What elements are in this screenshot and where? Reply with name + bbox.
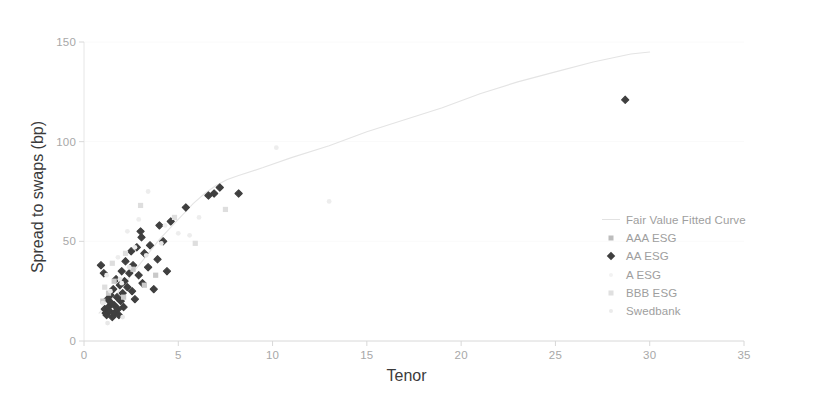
y-tick-0: 0 xyxy=(38,335,76,347)
x-tick-10: 10 xyxy=(266,349,279,361)
series-bbb-esg xyxy=(102,203,228,290)
legend-line-icon xyxy=(600,211,622,229)
series-aa-esg xyxy=(97,96,628,320)
legend-item-aa-esg[interactable]: AA ESG xyxy=(600,247,800,265)
legend-item-bbb-esg[interactable]: BBB ESG xyxy=(600,284,800,302)
legend-label: AAA ESG xyxy=(626,232,677,244)
legend-dot-icon xyxy=(600,302,622,320)
legend-square-icon xyxy=(600,229,622,247)
legend-dot-icon xyxy=(600,266,622,284)
legend-label: A ESG xyxy=(626,269,661,281)
legend-label: AA ESG xyxy=(626,250,669,262)
chart-legend: Fair Value Fitted CurveAAA ESGAA ESGA ES… xyxy=(600,211,800,320)
y-tick-150: 150 xyxy=(38,36,76,48)
legend-square-icon xyxy=(600,284,622,302)
legend-label: Fair Value Fitted Curve xyxy=(626,214,746,226)
x-axis-title: Tenor xyxy=(0,367,813,385)
legend-diamond-icon xyxy=(600,247,622,265)
series-fair-value-fitted-curve xyxy=(99,52,650,313)
legend-item-a-esg[interactable]: A ESG xyxy=(600,266,800,284)
legend-item-aaa-esg[interactable]: AAA ESG xyxy=(600,229,800,247)
x-tick-15: 15 xyxy=(360,349,373,361)
y-axis-title: Spread to swaps (bp) xyxy=(29,97,47,297)
series-a-esg xyxy=(104,145,331,285)
chart-container: 05101520253035 050100150 Tenor Spread to… xyxy=(0,0,813,408)
x-tick-25: 25 xyxy=(549,349,562,361)
scatter-plot-canvas xyxy=(0,0,813,408)
x-tick-35: 35 xyxy=(737,349,750,361)
legend-marker-glyph xyxy=(609,290,614,295)
x-tick-20: 20 xyxy=(455,349,468,361)
legend-label: BBB ESG xyxy=(626,287,677,299)
legend-line-glyph xyxy=(602,219,620,220)
legend-marker-glyph xyxy=(609,273,613,277)
legend-item-fair-value-fitted-curve[interactable]: Fair Value Fitted Curve xyxy=(600,211,800,229)
x-tick-5: 5 xyxy=(175,349,182,361)
legend-marker-glyph xyxy=(609,236,614,241)
legend-label: Swedbank xyxy=(626,305,681,317)
legend-marker-glyph xyxy=(607,252,615,260)
x-tick-0: 0 xyxy=(81,349,88,361)
legend-marker-glyph xyxy=(609,309,613,313)
legend-item-swedbank[interactable]: Swedbank xyxy=(600,302,800,320)
x-tick-30: 30 xyxy=(643,349,656,361)
